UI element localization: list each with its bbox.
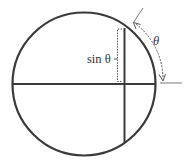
angle-arc-arrow-top xyxy=(134,23,141,30)
theta-label: θ xyxy=(153,34,159,48)
angle-arc-arrow-bottom xyxy=(159,74,166,81)
top-reference-line xyxy=(133,8,143,23)
sine-diagram: sin θ θ xyxy=(0,0,191,163)
sine-bracket xyxy=(118,29,123,82)
sine-label: sin θ xyxy=(87,52,111,66)
angle-arc xyxy=(136,24,163,79)
